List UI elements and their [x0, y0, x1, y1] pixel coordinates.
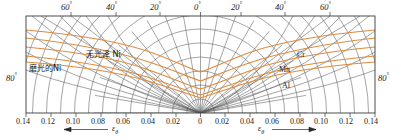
x-tick-r-008: 0.08	[290, 117, 304, 126]
x-tick-l-012: 0.12	[41, 117, 55, 126]
annotation-al: Al	[282, 81, 290, 90]
x-axis-label-left: εθ	[112, 124, 118, 135]
angle-tick-right-60: 60°	[320, 1, 331, 12]
annotation-polished-ni: 磨光的Ni	[29, 62, 61, 73]
x-tick-zero: 0	[198, 117, 202, 126]
annotation-matte-ni: 无光泽 Ni	[86, 48, 121, 59]
x-tick-r-014: 0.14	[364, 117, 378, 126]
x-tick-r-002: 0.02	[215, 117, 229, 126]
angle-tick-right-40: 40°	[275, 1, 286, 12]
axis-caption-arrows	[64, 127, 316, 131]
x-tick-r-004: 0.04	[240, 117, 254, 126]
x-axis-label-right: εθ	[258, 124, 264, 135]
angle-axis-ticks	[71, 12, 330, 16]
x-tick-l-002: 0.02	[166, 117, 180, 126]
x-tick-l-010: 0.10	[66, 117, 80, 126]
x-tick-l-008: 0.08	[91, 117, 105, 126]
x-tick-l-014: 0.14	[16, 117, 30, 126]
annotation-mn: Mn	[279, 65, 290, 74]
angle-tick-left-40: 40°	[106, 1, 117, 12]
x-tick-r-006: 0.06	[265, 117, 279, 126]
annotation-cr: Cr	[297, 50, 305, 59]
angle-tick-right-80: 80°	[378, 72, 389, 83]
chart-plot-area	[19, 0, 383, 132]
x-tick-r-012: 0.12	[339, 117, 353, 126]
angle-tick-left-60: 60°	[61, 1, 72, 12]
angle-tick-left-20: 20°	[150, 1, 161, 12]
angle-tick-left-80: 80°	[6, 72, 17, 83]
x-tick-l-004: 0.04	[141, 117, 155, 126]
x-tick-r-010: 0.10	[314, 117, 328, 126]
angle-tick-zero: 0°	[194, 1, 201, 12]
angle-tick-right-20: 20°	[231, 1, 242, 12]
